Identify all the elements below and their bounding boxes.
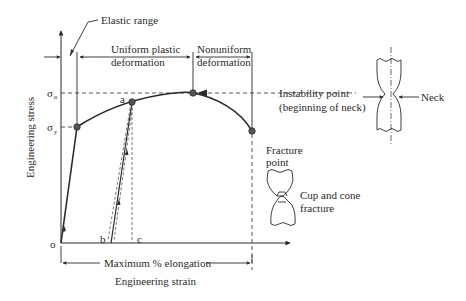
yield-point — [74, 124, 80, 130]
fracture-point — [249, 128, 255, 134]
neck-label: Neck — [421, 91, 445, 103]
svg-text:Elastic range: Elastic range — [101, 14, 158, 26]
cup-cone-label-1: Cup and cone — [300, 189, 361, 201]
instability-label-1: Instability point — [279, 87, 349, 99]
sigma-y-label: σ y — [47, 121, 57, 135]
point-b-label: b — [100, 233, 106, 245]
cup-cone-fracture-icon — [267, 170, 295, 226]
nonuniform-label-1: Nonuniform — [197, 43, 252, 55]
fracture-point-label-2: point — [266, 156, 289, 168]
instability-label-2: (beginning of neck) — [279, 101, 366, 114]
x-axis-label: Engineering strain — [115, 275, 196, 287]
instability-point — [190, 90, 196, 96]
svg-text:y: y — [54, 129, 57, 135]
stress-strain-diagram: Engineering stress Engineering strain o … — [0, 0, 466, 301]
fracture-point-label-1: Fracture — [266, 144, 303, 156]
axes — [61, 31, 290, 243]
svg-text:σ: σ — [47, 87, 53, 99]
svg-text:u: u — [54, 94, 57, 100]
uniform-plastic-label-1: Uniform plastic — [111, 43, 180, 55]
uniform-plastic-label-2: deformation — [111, 56, 165, 68]
cup-cone-label-2: fracture — [300, 202, 334, 214]
point-a-label: a — [120, 93, 125, 105]
svg-text:σ: σ — [47, 121, 53, 133]
nonuniform-label-2: deformation — [197, 56, 251, 68]
stress-strain-curve — [61, 92, 252, 243]
necked-specimen-icon — [363, 47, 419, 146]
point-c-label: c — [137, 233, 142, 245]
origin-label: o — [50, 238, 56, 250]
svg-text:Maximum % elongation: Maximum % elongation — [104, 257, 211, 269]
sigma-u-label: σ u — [47, 87, 57, 100]
unload-reload-lines — [108, 102, 133, 243]
max-elongation-dimension: Maximum % elongation — [61, 246, 252, 269]
point-a — [129, 99, 135, 105]
y-axis-label: Engineering stress — [24, 97, 36, 178]
